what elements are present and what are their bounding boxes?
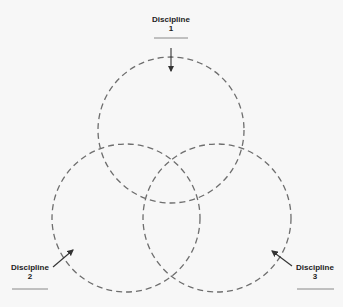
label-discipline-3-number: 3 [285,272,343,281]
venn-diagram [0,0,343,307]
circle-discipline-3 [143,144,291,292]
label-discipline-1: Discipline 1 [141,15,201,33]
label-discipline-2-name: Discipline [0,263,60,272]
label-discipline-2: Discipline 2 [0,263,60,281]
label-discipline-3: Discipline 3 [285,263,343,281]
circle-discipline-2 [52,144,200,292]
label-discipline-1-name: Discipline [141,15,201,24]
circle-discipline-1 [98,57,244,203]
label-discipline-1-number: 1 [141,24,201,33]
label-discipline-3-name: Discipline [285,263,343,272]
label-discipline-2-number: 2 [0,272,60,281]
